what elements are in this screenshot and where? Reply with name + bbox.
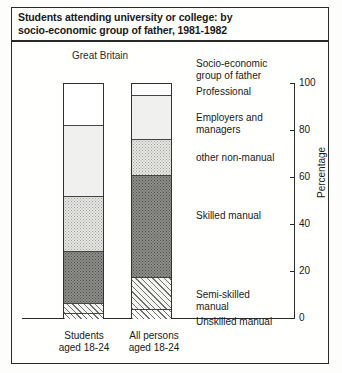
page-title-line-2: socio-economic group of father, 1981-198… xyxy=(18,24,322,37)
chart-subtitle: Great Britain xyxy=(72,50,128,61)
chart-frame xyxy=(11,7,329,364)
chart-page: Students attending university or college… xyxy=(0,0,342,373)
page-title-line-1: Students attending university or college… xyxy=(18,11,322,24)
chart-title-block: Students attending university or college… xyxy=(11,7,329,42)
